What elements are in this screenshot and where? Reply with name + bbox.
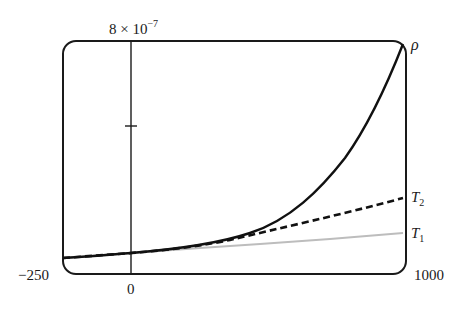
legend-t2-label: T2: [411, 190, 424, 208]
series-t2-line: [63, 198, 403, 258]
legend-rho-label: ρ: [411, 37, 419, 53]
plot-frame: [63, 41, 406, 274]
x-min-tick-label: −250: [18, 268, 49, 283]
legend-t1-label: T1: [411, 226, 424, 244]
y-top-tick-label: 8 × 10−7: [109, 19, 158, 37]
x-zero-tick-label: 0: [127, 282, 135, 297]
x-max-tick-label: 1000: [414, 268, 444, 283]
series-rho-line: [63, 44, 403, 258]
chart-plot-area: [0, 0, 451, 309]
